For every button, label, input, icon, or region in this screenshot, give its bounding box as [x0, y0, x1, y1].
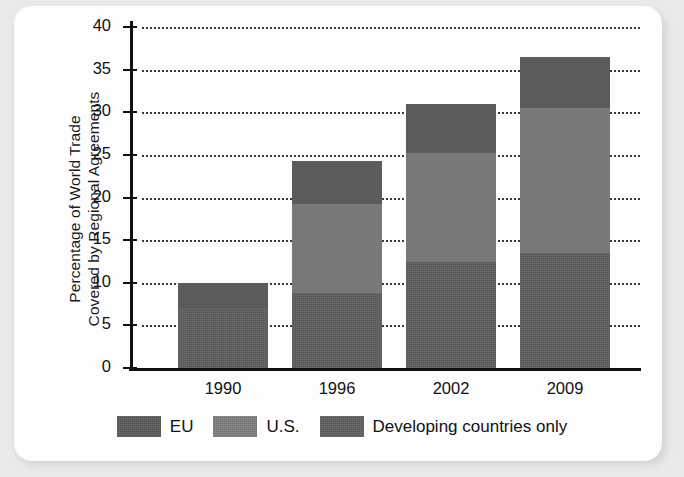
legend-item-eu[interactable]: EU [117, 416, 194, 437]
gridline-40 [142, 27, 640, 29]
legend-item-dev[interactable]: Developing countries only [320, 416, 568, 437]
y-tick-40: 40 [123, 26, 137, 28]
chart-legend: EUU.S.Developing countries only [0, 416, 684, 437]
bar-segment-dev-1996[interactable] [292, 293, 382, 368]
bar-segment-dev-2002[interactable] [406, 262, 496, 368]
y-tick-label-35: 35 [93, 59, 111, 78]
x-axis-label-1996: 1996 [319, 379, 356, 398]
bar-1990[interactable] [178, 283, 268, 368]
y-axis-line [130, 21, 133, 368]
y-tick-label-10: 10 [93, 272, 111, 291]
y-axis-title: Percentage of World Trade Covered by Reg… [65, 39, 103, 379]
bar-2002[interactable] [406, 104, 496, 368]
y-axis-title-line-1: Percentage of World Trade [65, 39, 84, 379]
stacked-bar-chart-figure: Percentage of World Trade Covered by Reg… [0, 0, 684, 477]
legend-swatch-dev-icon [320, 416, 364, 437]
y-tick-10: 10 [123, 282, 137, 284]
y-tick-15: 15 [123, 239, 137, 241]
x-axis-label-1990: 1990 [205, 379, 242, 398]
legend-swatch-eu-icon [117, 416, 161, 437]
y-axis-title-line-2: Covered by Regional Agreements [84, 39, 103, 379]
y-tick-label-25: 25 [93, 144, 111, 163]
legend-label-us: U.S. [266, 417, 299, 437]
y-tick-25: 25 [123, 154, 137, 156]
chart-screenshot: Percentage of World Trade Covered by Reg… [0, 0, 684, 477]
legend-label-eu: EU [170, 417, 194, 437]
bar-segment-eu-1996[interactable] [292, 161, 382, 204]
legend-item-us[interactable]: U.S. [213, 416, 299, 437]
y-tick-label-40: 40 [93, 16, 111, 35]
bar-segment-eu-1990[interactable] [178, 283, 268, 309]
legend-label-dev: Developing countries only [373, 417, 568, 437]
bar-segment-us-1996[interactable] [292, 204, 382, 293]
plot-area: 0510152025303540 1990199620022009 [130, 27, 640, 368]
bar-1996[interactable] [292, 161, 382, 368]
y-tick-label-5: 5 [102, 314, 111, 333]
y-tick-35: 35 [123, 69, 137, 71]
bar-segment-dev-1990[interactable] [178, 308, 268, 368]
y-tick-label-0: 0 [102, 357, 111, 376]
bar-segment-dev-2009[interactable] [520, 253, 610, 368]
y-tick-5: 5 [123, 324, 137, 326]
bar-2009[interactable] [520, 57, 610, 368]
x-axis-line [129, 368, 641, 371]
bar-segment-eu-2009[interactable] [520, 57, 610, 108]
x-axis-label-2009: 2009 [547, 379, 584, 398]
x-axis-label-2002: 2002 [433, 379, 470, 398]
y-tick-label-30: 30 [93, 101, 111, 120]
y-tick-0: 0 [123, 367, 137, 369]
bar-segment-us-2009[interactable] [520, 108, 610, 253]
bar-segment-us-2002[interactable] [406, 153, 496, 262]
bar-segment-eu-2002[interactable] [406, 104, 496, 153]
y-tick-20: 20 [123, 197, 137, 199]
y-tick-label-15: 15 [93, 229, 111, 248]
y-tick-30: 30 [123, 111, 137, 113]
y-tick-label-20: 20 [93, 187, 111, 206]
legend-swatch-us-icon [213, 416, 257, 437]
